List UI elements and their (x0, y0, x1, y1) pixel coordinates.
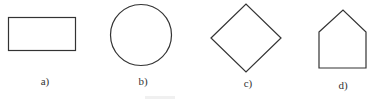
faint-mark (145, 96, 175, 99)
circle-shape (111, 5, 172, 66)
label-b: b) (138, 75, 147, 87)
pentagon-shape (319, 10, 366, 68)
label-d: d) (338, 79, 347, 91)
rectangle-shape (9, 18, 76, 51)
shapes-figure (0, 0, 371, 100)
label-a: a) (41, 75, 50, 87)
label-c: c) (244, 77, 253, 89)
diamond-shape (211, 4, 281, 72)
